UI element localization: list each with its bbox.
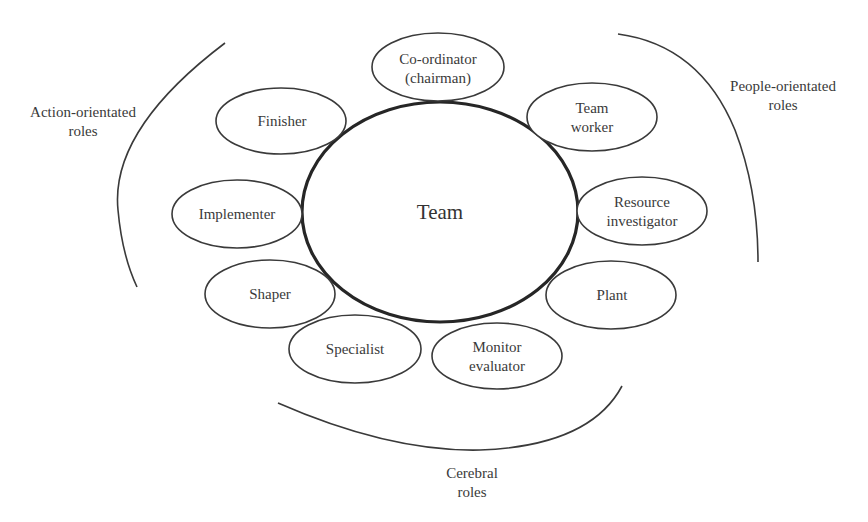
- role-label-line1: Monitor: [472, 339, 521, 355]
- role-monitor-evaluator: Monitor evaluator: [432, 323, 562, 389]
- role-finisher: Finisher: [216, 88, 346, 154]
- role-resource-investigator: Resource investigator: [577, 177, 707, 245]
- team-roles-diagram: Team Co-ordinator (chairman) Finisher Te…: [0, 0, 868, 522]
- cerebral-roles-arc: [278, 386, 622, 450]
- group-label-line2: roles: [768, 97, 797, 113]
- role-label-line2: investigator: [607, 213, 678, 229]
- role-label-line1: Resource: [614, 194, 670, 210]
- role-label-line1: Team: [575, 100, 608, 116]
- role-label: Specialist: [326, 341, 385, 357]
- role-label: Implementer: [199, 206, 276, 222]
- role-ellipse: [432, 323, 562, 389]
- group-label-line1: People-orientated: [730, 78, 836, 94]
- action-roles-arc: [117, 43, 225, 287]
- group-label-line1: Cerebral: [446, 465, 498, 481]
- role-label-line2: (chairman): [405, 70, 471, 87]
- role-shaper: Shaper: [205, 260, 335, 328]
- role-label-line1: Co-ordinator: [399, 51, 476, 67]
- group-label-cerebral: Cerebral roles: [446, 465, 498, 500]
- group-label-line1: Action-orientated: [30, 104, 136, 120]
- role-ellipse: [527, 83, 657, 151]
- group-label-action: Action-orientated roles: [30, 104, 136, 139]
- role-ellipse: [577, 177, 707, 245]
- role-coordinator: Co-ordinator (chairman): [372, 33, 504, 101]
- role-implementer: Implementer: [172, 180, 302, 248]
- role-label: Shaper: [249, 286, 291, 302]
- group-label-people: People-orientated roles: [730, 78, 836, 113]
- role-label-line2: worker: [571, 119, 613, 135]
- role-specialist: Specialist: [289, 315, 421, 383]
- role-label: Finisher: [257, 113, 306, 129]
- group-label-line2: roles: [68, 123, 97, 139]
- role-team-worker: Team worker: [527, 83, 657, 151]
- group-label-line2: roles: [457, 484, 486, 500]
- role-ellipse: [372, 33, 504, 101]
- role-plant: Plant: [546, 261, 676, 329]
- role-label: Plant: [597, 287, 629, 303]
- team-label: Team: [417, 200, 463, 224]
- role-label-line2: evaluator: [469, 358, 525, 374]
